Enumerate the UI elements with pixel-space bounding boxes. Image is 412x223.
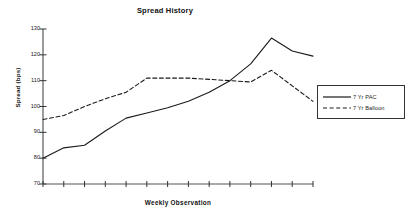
spread-history-chart: Spread History 130 120 110 100 90 80 70 … [0, 0, 412, 223]
y-tick-label: 100 [18, 104, 40, 110]
legend-dashed-line-icon [322, 104, 352, 112]
legend-item-7-yr-balloon: 7 Yr Balloon [322, 102, 400, 113]
legend-solid-line-icon [322, 93, 352, 101]
x-axis [43, 181, 313, 187]
y-tick-label: 80 [18, 155, 40, 161]
plot-svg [43, 29, 313, 184]
y-axis-title: Spread (bps) [14, 48, 21, 128]
y-axis [40, 29, 47, 184]
legend-item-7-yr-pac: 7 Yr PAC [322, 91, 400, 102]
legend-label: 7 Yr PAC [352, 94, 377, 100]
y-tick-label: 110 [18, 78, 40, 84]
series-line-7-yr-balloon [43, 70, 313, 119]
y-tick-label: 130 [18, 26, 40, 32]
x-axis-title: Weekly Observation [43, 199, 313, 206]
chart-title: Spread History [0, 6, 330, 15]
y-tick-label: 70 [18, 181, 40, 187]
chart-legend: 7 Yr PAC 7 Yr Balloon [317, 85, 405, 119]
y-tick-label: 120 [18, 52, 40, 58]
plot-area [43, 29, 313, 184]
series-line-7-yr-pac [43, 38, 313, 158]
y-tick-label: 90 [18, 130, 40, 136]
legend-label: 7 Yr Balloon [352, 105, 385, 111]
